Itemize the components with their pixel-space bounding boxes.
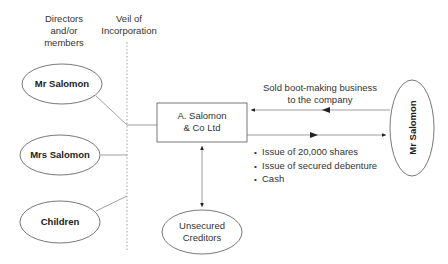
transfer-label-line: to the company xyxy=(240,94,400,106)
node-mrs-salomon-label: Mrs Salomon xyxy=(20,149,100,161)
transfer-label: Sold boot-making business to the company xyxy=(240,82,400,106)
transfer-label-line: Sold boot-making business xyxy=(240,82,400,94)
consideration-list: Issue of 20,000 shares Issue of secured … xyxy=(254,146,377,187)
node-mr-salomon-label: Mr Salomon xyxy=(22,78,102,90)
creditors-label-line: Creditors xyxy=(162,232,242,244)
company-label: A. Salomon & Co Ltd xyxy=(157,110,247,134)
header-veil: Veil of Incorporation xyxy=(94,13,164,37)
arrow-mid-head-right xyxy=(310,132,318,138)
header-members: Directors and/or members xyxy=(34,13,94,49)
arrow-mid-head-left xyxy=(322,107,330,113)
header-members-line: members xyxy=(34,37,94,49)
company-label-line: A. Salomon xyxy=(157,110,247,122)
connector-mr-salomon xyxy=(96,96,127,125)
header-veil-line: Incorporation xyxy=(94,25,164,37)
header-veil-line: Veil of xyxy=(94,13,164,25)
creditors-label-line: Unsecured xyxy=(162,220,242,232)
connector-children xyxy=(96,196,127,211)
consideration-item: Issue of secured debenture xyxy=(254,160,377,174)
header-members-line: and/or xyxy=(34,25,94,37)
consideration-item: Cash xyxy=(254,173,377,187)
consideration-item: Issue of 20,000 shares xyxy=(254,146,377,160)
header-members-line: Directors xyxy=(34,13,94,25)
node-children-label: Children xyxy=(20,216,100,228)
company-label-line: & Co Ltd xyxy=(157,122,247,134)
creditors-label: Unsecured Creditors xyxy=(162,220,242,244)
node-right-mr-salomon-label: Mr Salomon xyxy=(407,94,418,162)
